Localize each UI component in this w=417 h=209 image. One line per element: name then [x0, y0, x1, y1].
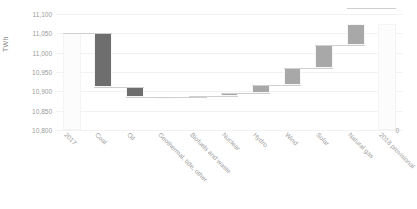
bar-wind[interactable] — [284, 68, 302, 85]
y-tick-label: 10,800 — [6, 127, 52, 134]
x-tick-label: 2018 provisional — [378, 131, 416, 169]
bar-hydro[interactable] — [252, 85, 270, 93]
bar-oil[interactable] — [126, 87, 144, 97]
x-tick-label: 2017 — [63, 131, 78, 146]
x-tick-label: Solar — [315, 131, 331, 147]
x-tick-label: Coal — [94, 131, 108, 145]
y-tick-label: 10,850 — [6, 107, 52, 114]
connector-line — [284, 68, 333, 69]
bar-solar[interactable] — [315, 45, 333, 68]
x-tick-label: Natural gas — [347, 131, 375, 159]
bar-2018-provisional[interactable] — [378, 24, 396, 130]
connector-line — [94, 87, 143, 88]
x-tick-label: Hydro — [252, 131, 269, 148]
x-axis: 2017CoalOilGeothermal, tide, otherBiofue… — [56, 131, 403, 209]
y-tick-label: 11,050 — [6, 30, 52, 37]
plot-area — [56, 14, 403, 130]
y-axis: 10,80010,85010,90010,95011,00011,05011,1… — [0, 0, 52, 209]
connector-line — [315, 45, 364, 46]
y-tick-label: 11,100 — [6, 11, 52, 18]
bar-natural-gas[interactable] — [347, 24, 365, 45]
connector-line — [252, 85, 301, 86]
bar-coal[interactable] — [94, 33, 112, 87]
bar-2017[interactable] — [63, 33, 81, 130]
x-tick-label: Oil — [126, 131, 137, 142]
connector-line — [221, 93, 270, 94]
connector-line — [63, 33, 112, 34]
y-tick-label: 10,900 — [6, 88, 52, 95]
x-tick-label: Wind — [284, 131, 299, 146]
y-tick-label: 11,000 — [6, 49, 52, 56]
connector-line — [347, 8, 396, 9]
y-tick-label: 10,950 — [6, 69, 52, 76]
axis-break-label: 0 — [395, 127, 399, 134]
connector-line — [189, 96, 238, 97]
x-tick-label: Nuclear — [221, 131, 242, 152]
